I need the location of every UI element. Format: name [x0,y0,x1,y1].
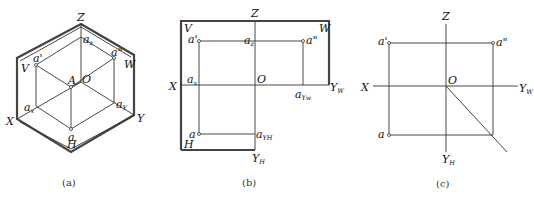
label-ax: ax [187,73,198,87]
point-a-double-prime [302,40,305,43]
projector-line [36,106,71,129]
label-v: V [21,62,30,75]
projection-diagram: Z X Y O A V W H a' a" a az ax aY (a) Z X… [0,0,534,200]
label-ayw: aYw [295,88,312,102]
point-a-prime [388,42,391,45]
label-a-double-prime: a" [306,34,318,47]
plane-boundary-hexagon [17,24,134,152]
edge-line [71,117,131,149]
label-az: az [244,34,255,48]
label-yh: YH [442,153,455,167]
figure-b: Z X O V W H a' a" a az ax aYw aYH YW YH … [168,7,345,188]
projector-line [71,103,114,129]
label-x: X [5,115,15,128]
label-x: X [360,81,370,94]
label-o: O [257,73,266,86]
point-a-prime [198,40,201,43]
label-yw: YW [519,82,534,96]
figure-c: Z X O a' a" a YW YH (c) [360,10,534,189]
label-z: Z [441,10,450,23]
label-yh: YH [252,152,265,166]
auxiliary-45-line [446,86,507,152]
label-a-double-prime: a" [111,46,123,59]
label-ax: ax [24,101,35,115]
label-yw: YW [330,81,345,95]
projector-line [71,58,114,87]
projector-line [36,65,71,87]
edge-line [20,122,71,149]
label-a-prime: a' [378,35,388,48]
label-ayh: aYH [256,128,273,142]
label-A: A [67,74,76,87]
caption-a: (a) [62,177,76,188]
label-a-double-prime: a" [496,36,508,49]
figure-a: Z X Y O A V W H a' a" a az ax aY (a) [5,11,146,188]
caption-b: (b) [242,177,256,188]
caption-c: (c) [436,178,450,189]
label-w: W [319,22,332,35]
label-y: Y [137,112,146,125]
label-ay: aY [116,98,128,112]
projector-line [36,37,81,65]
label-x: X [168,80,178,93]
label-a: a [189,128,196,141]
point-a [388,134,391,137]
point-a-double-prime [492,42,495,45]
label-z: Z [76,11,85,24]
label-a-prime: a' [33,52,43,65]
label-o: O [448,74,457,87]
label-a: a [68,131,75,144]
label-a-prime: a' [188,33,198,46]
label-a: a [378,128,385,141]
label-o: O [82,73,91,86]
label-w: W [124,58,137,71]
label-az: az [83,33,94,47]
point-a [198,133,201,136]
label-z: Z [250,7,259,20]
